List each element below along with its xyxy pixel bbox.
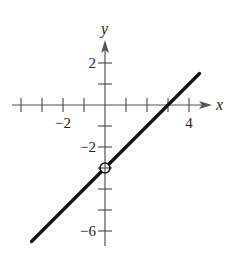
y-tick-label: −2 <box>80 139 96 155</box>
y-tick-label: 2 <box>89 55 97 71</box>
x-axis-label: x <box>215 96 223 113</box>
series <box>32 74 200 242</box>
series-line <box>32 74 200 242</box>
annotations <box>100 163 110 173</box>
y-tick-label: −6 <box>80 223 96 239</box>
x-tick-label: −2 <box>55 115 71 131</box>
axes <box>12 40 212 246</box>
x-tick-label: 4 <box>185 115 193 131</box>
y-axis-label: y <box>99 20 109 38</box>
line-chart: −242−2−6 x y <box>0 0 233 253</box>
